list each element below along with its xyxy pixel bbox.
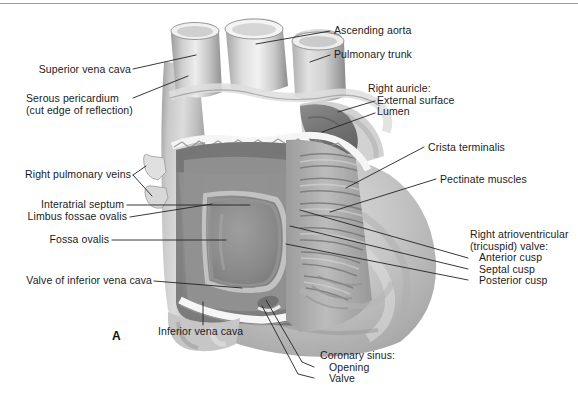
label-serous-pericardium: Serous pericardium (cut edge of reflecti…: [26, 93, 141, 116]
tricuspid-header-line-1: Right atrioventricular: [470, 229, 569, 241]
coronary-sinus-header: Coronary sinus:: [320, 350, 395, 362]
svc-lumen: [177, 26, 213, 37]
serous-pericardium-line-2: (cut edge of reflection): [26, 105, 141, 117]
panel-letter-a: A: [112, 329, 121, 343]
label-limbus-fossae-ovalis: Limbus fossae ovalis: [20, 211, 127, 223]
pulmonary-trunk-lumen: [299, 36, 337, 47]
serous-pericardium-line-1: Serous pericardium: [26, 93, 141, 105]
label-pectinate-muscles: Pectinate muscles: [440, 174, 527, 186]
aorta-lumen: [232, 23, 276, 36]
label-valve-of-inferior-vena-cava: Valve of inferior vena cava: [16, 275, 152, 287]
right-auricle-lumen: Lumen: [368, 106, 454, 118]
label-fossa-ovalis: Fossa ovalis: [20, 234, 109, 246]
label-interatrial-septum: Interatrial septum: [20, 199, 124, 211]
label-right-auricle-group: Right auricle: External surface Lumen: [368, 83, 454, 118]
label-inferior-vena-cava: Inferior vena cava: [158, 326, 243, 338]
heart-drawing: [144, 18, 437, 357]
label-ascending-aorta: Ascending aorta: [334, 25, 411, 37]
label-crista-terminalis: Crista terminalis: [428, 142, 505, 154]
anatomical-figure: Superior vena cava Serous pericardium (c…: [0, 0, 578, 402]
tricuspid-posterior-cusp: Posterior cusp: [470, 275, 569, 287]
label-tricuspid-valve-group: Right atrioventricular (tricuspid) valve…: [470, 229, 569, 287]
label-superior-vena-cava: Superior vena cava: [26, 64, 131, 76]
label-pulmonary-trunk: Pulmonary trunk: [334, 49, 412, 61]
right-auricle-header: Right auricle:: [368, 83, 454, 95]
label-coronary-sinus-group: Coronary sinus: Opening Valve: [320, 350, 395, 385]
coronary-sinus-valve: Valve: [320, 373, 395, 385]
label-right-pulmonary-veins: Right pulmonary veins: [23, 169, 131, 181]
